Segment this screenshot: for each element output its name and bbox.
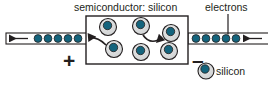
- semiconductor-title-label: semiconductor: silicon: [74, 2, 177, 13]
- electron: [192, 35, 200, 43]
- silicon-atom: [106, 41, 123, 58]
- silicon-atom: [133, 44, 150, 61]
- silicon-atom: [163, 25, 180, 42]
- electron: [222, 35, 230, 43]
- negative-terminal-label: –: [192, 49, 204, 70]
- figure-canvas: semiconductor: silicon electrons + – sil…: [0, 0, 268, 85]
- silicon-atom: [133, 18, 150, 35]
- electron: [44, 35, 52, 43]
- left-wire: [6, 33, 88, 44]
- electrons-label: electrons: [205, 2, 248, 13]
- electron: [64, 35, 72, 43]
- silicon-atom: [100, 19, 117, 36]
- electron: [34, 35, 42, 43]
- electron: [212, 35, 220, 43]
- electron: [202, 35, 210, 43]
- positive-terminal-label: +: [63, 50, 75, 71]
- silicon-atom: [161, 43, 178, 60]
- electron: [54, 35, 62, 43]
- right-wire: [188, 33, 268, 44]
- left-wire-electrons: [34, 35, 82, 43]
- right-wire-electrons: [192, 35, 240, 43]
- electron: [74, 35, 82, 43]
- electron: [232, 35, 240, 43]
- legend-label-silicon: silicon: [216, 66, 245, 77]
